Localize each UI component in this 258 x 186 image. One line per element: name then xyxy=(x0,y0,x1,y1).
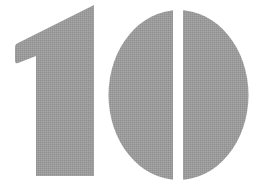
digit-zero-shape xyxy=(100,0,258,186)
digit-one-shape xyxy=(15,5,94,176)
digit-zero-left-half xyxy=(100,0,173,186)
digit-zero-right-half xyxy=(183,0,258,186)
number-ten-graphic xyxy=(0,0,258,186)
